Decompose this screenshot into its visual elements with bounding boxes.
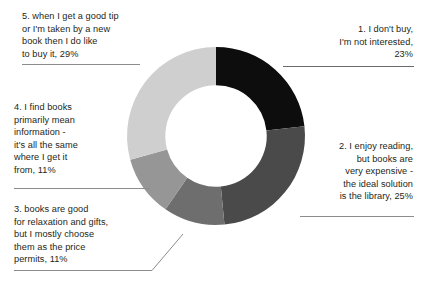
slice-label-5: 5. when I get a good tip or I'm taken by…: [22, 10, 157, 60]
donut-slice-group: [127, 47, 305, 225]
slice-label-3: 3. books are good for relaxation and gif…: [14, 203, 159, 266]
slice-label-2: 2. I enjoy reading, but books are very e…: [285, 140, 413, 203]
slice-label-1: 1. I don't buy, I'm not interested, 23%: [287, 23, 413, 61]
slice-label-4: 4. I find books primarily mean informati…: [14, 101, 134, 177]
donut-slice-5: [127, 47, 216, 160]
donut-chart: 5. when I get a good tip or I'm taken by…: [0, 0, 421, 288]
